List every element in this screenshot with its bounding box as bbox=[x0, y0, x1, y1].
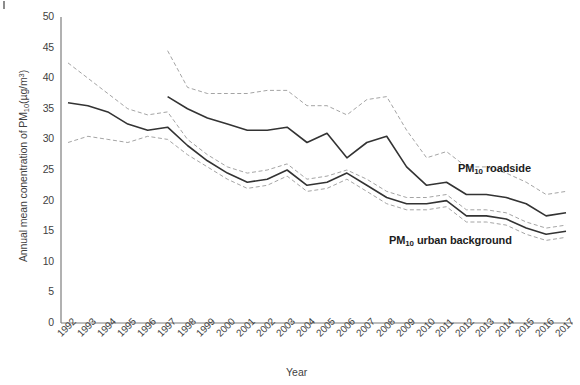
y-axis-title: Annual mean conentration of PM10(µg/m3) bbox=[17, 61, 29, 271]
chart-series-group bbox=[68, 51, 566, 241]
y-tick-40: 40 bbox=[30, 71, 54, 83]
y-tick-25: 25 bbox=[30, 163, 54, 175]
y-tick-45: 45 bbox=[30, 41, 54, 53]
x-axis-title: Year bbox=[286, 366, 307, 378]
y-tick-10: 10 bbox=[30, 255, 54, 267]
y-tick-5: 5 bbox=[30, 285, 54, 297]
series-line-3 bbox=[68, 63, 566, 228]
y-tick-50: 50 bbox=[30, 10, 54, 22]
y-tick-35: 35 bbox=[30, 102, 54, 114]
series-label-pm10-roadside: PM10 roadside bbox=[458, 162, 531, 174]
y-tick-15: 15 bbox=[30, 224, 54, 236]
series-line-0 bbox=[168, 97, 566, 216]
y-tick-0: 0 bbox=[30, 316, 54, 328]
series-line-4 bbox=[68, 136, 566, 240]
pm10-trend-figure: 05101520253035404550 1992199319941995199… bbox=[0, 0, 580, 385]
y-tick-30: 30 bbox=[30, 132, 54, 144]
series-label-pm10-urban-background: PM10 urban background bbox=[389, 234, 512, 246]
y-tick-20: 20 bbox=[30, 194, 54, 206]
